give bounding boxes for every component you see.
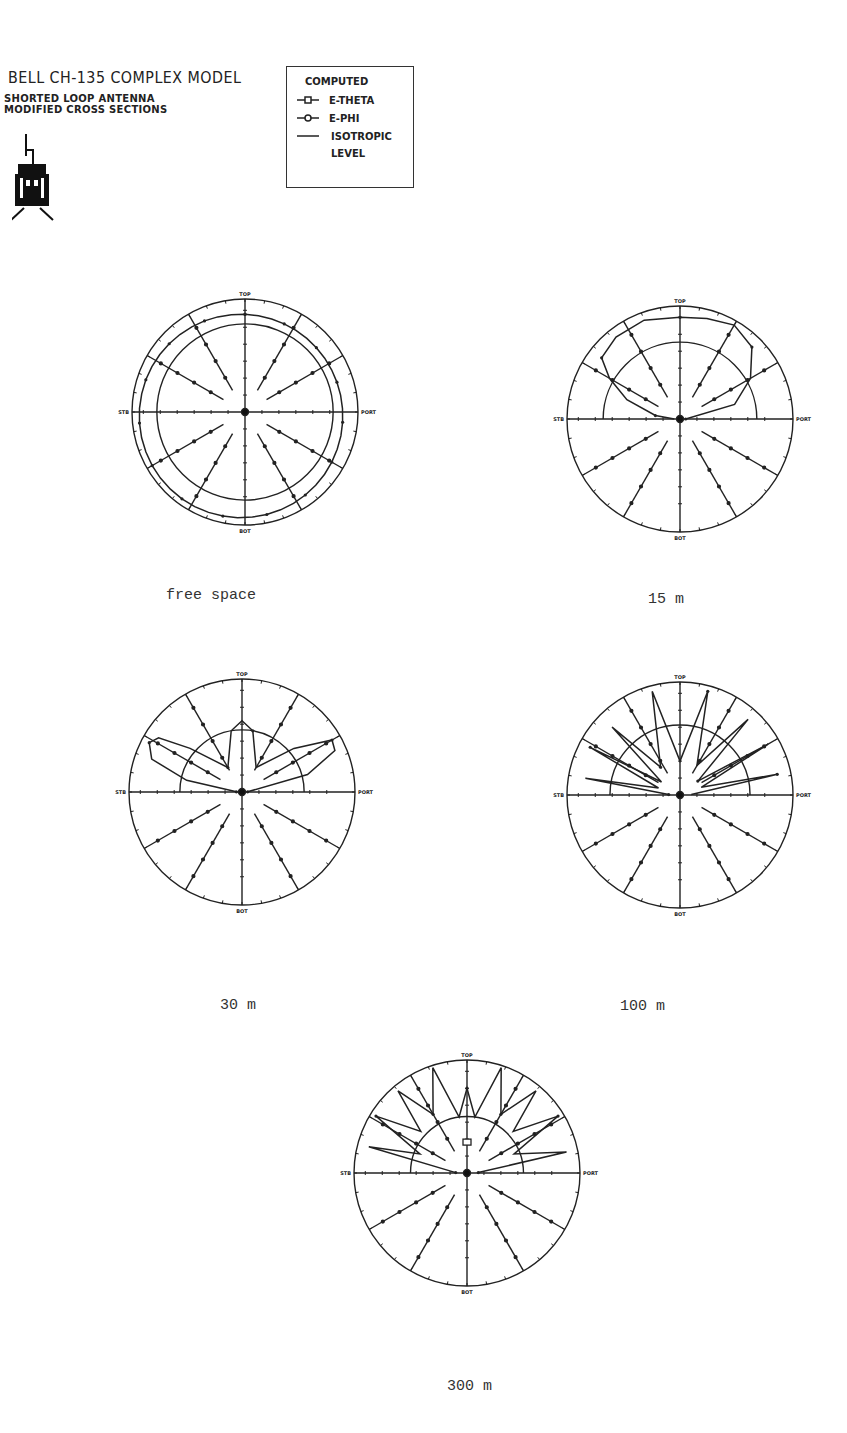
svg-text:TOP: TOP <box>674 674 686 680</box>
legend-heading: COMPUTED <box>305 76 368 87</box>
legend-item-isotropic: ISOTROPIC <box>331 131 392 142</box>
svg-text:TOP: TOP <box>239 291 251 297</box>
svg-text:STB: STB <box>118 409 129 415</box>
svg-text:PORT: PORT <box>583 1170 599 1176</box>
square-marker-icon <box>305 97 311 103</box>
caption-100m: 100 m <box>620 998 665 1015</box>
polar-plot-300m: TOPBOTSTBPORT <box>332 1038 602 1310</box>
svg-text:STB: STB <box>115 789 126 795</box>
polar-plot-free-space: TOPBOTSTBPORT <box>110 277 380 549</box>
svg-text:PORT: PORT <box>796 416 812 422</box>
svg-text:BOT: BOT <box>461 1289 473 1295</box>
polar-plot-15m: TOPBOTSTBPORT <box>545 284 815 556</box>
svg-text:TOP: TOP <box>236 671 248 677</box>
svg-text:STB: STB <box>553 792 564 798</box>
svg-text:BOT: BOT <box>239 528 251 534</box>
polar-plot-30m: TOPBOTSTBPORT <box>107 657 377 929</box>
svg-text:BOT: BOT <box>674 911 686 917</box>
svg-text:BOT: BOT <box>236 908 248 914</box>
legend-item-level: LEVEL <box>331 148 365 159</box>
caption-300m: 300 m <box>447 1378 492 1395</box>
svg-text:TOP: TOP <box>461 1052 473 1058</box>
legend-item-e-phi: E-PHI <box>329 113 359 124</box>
legend-markers <box>295 94 325 154</box>
polar-plot-100m: TOPBOTSTBPORT <box>545 660 815 932</box>
legend-item-e-theta: E-THETA <box>329 95 374 106</box>
circle-marker-icon <box>305 115 311 121</box>
subtitle-line-1: SHORTED LOOP ANTENNA <box>4 93 155 104</box>
caption-free-space: free space <box>166 587 256 604</box>
svg-text:BOT: BOT <box>674 535 686 541</box>
legend: COMPUTED E-THETA E-PHI ISOTROPIC LEVEL <box>286 66 414 188</box>
svg-text:PORT: PORT <box>361 409 377 415</box>
svg-text:STB: STB <box>340 1170 351 1176</box>
svg-text:STB: STB <box>553 416 564 422</box>
helicopter-icon <box>12 134 72 229</box>
svg-text:PORT: PORT <box>796 792 812 798</box>
svg-text:TOP: TOP <box>674 298 686 304</box>
caption-15m: 15 m <box>648 591 684 608</box>
chart-title: BELL CH-135 COMPLEX MODEL <box>8 69 241 87</box>
svg-text:PORT: PORT <box>358 789 374 795</box>
subtitle-line-2: MODIFIED CROSS SECTIONS <box>4 104 168 115</box>
caption-30m: 30 m <box>220 997 256 1014</box>
